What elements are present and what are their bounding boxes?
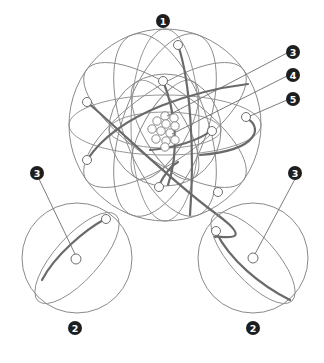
badge-2-left-text: 2	[72, 323, 79, 334]
atom-diagram: 1 3 4 5 3 3 2 2	[0, 0, 324, 363]
nucleon	[171, 136, 179, 144]
badge-3-left: 3	[30, 166, 44, 180]
nucleon	[170, 114, 178, 122]
badge-3-right: 3	[288, 166, 302, 180]
diagram-canvas: 1 3 4 5 3 3 2 2	[0, 0, 324, 363]
right-atom	[198, 200, 308, 316]
badge-1-text: 1	[160, 16, 167, 27]
electron	[102, 215, 111, 224]
badge-3-right-text: 3	[292, 168, 299, 179]
badge-4: 4	[286, 68, 300, 82]
nucleon	[153, 117, 161, 125]
electron	[174, 41, 183, 50]
leader-line-3-left	[39, 179, 75, 254]
badge-3-top: 3	[286, 45, 300, 59]
right-nucleus	[248, 253, 258, 263]
badge-2-right: 2	[246, 321, 260, 335]
right-electron-path	[216, 232, 290, 300]
nucleon	[152, 135, 160, 143]
nucleon	[161, 143, 169, 151]
electron	[83, 98, 92, 107]
badge-3-left-text: 3	[34, 168, 41, 179]
electron	[214, 188, 223, 197]
badge-5-text: 5	[290, 94, 297, 105]
electron	[208, 127, 217, 136]
electron	[83, 156, 92, 165]
main-atom	[66, 20, 265, 237]
badge-2-right-text: 2	[250, 323, 257, 334]
badge-5: 5	[286, 92, 300, 106]
left-atom	[22, 200, 132, 316]
badge-3-top-text: 3	[290, 47, 297, 58]
nucleon	[157, 127, 165, 135]
electron	[212, 227, 221, 236]
leader-line-5	[250, 100, 287, 116]
badge-2-left: 2	[68, 321, 82, 335]
electron	[155, 183, 164, 192]
badge-1: 1	[156, 14, 170, 28]
badge-4-text: 4	[290, 70, 297, 81]
left-nucleus	[71, 254, 81, 264]
nucleon	[148, 125, 156, 133]
electron	[242, 113, 251, 122]
electron	[159, 77, 168, 86]
